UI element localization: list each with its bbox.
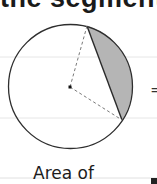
caption-area-of: Area of (33, 163, 94, 183)
equals-sign: = (150, 82, 157, 98)
cropped-glyph-mark (151, 178, 157, 184)
circle-segment-diagram (0, 0, 157, 184)
center-point (69, 86, 72, 89)
shaded-segment (87, 26, 132, 120)
